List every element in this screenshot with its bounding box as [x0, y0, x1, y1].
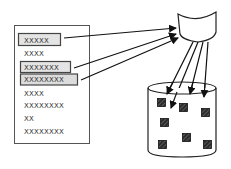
list-item: XXXXXXXX [24, 76, 64, 84]
data-block-icon [159, 141, 167, 149]
list-item: XXXX [24, 50, 44, 58]
data-block-icon [202, 109, 210, 117]
list-item: XXXXXXXX [24, 102, 64, 110]
list-item: XXXXXXX [24, 64, 59, 72]
list-item: XXXXXXXX [24, 128, 64, 136]
list-panel: XXXXX XXXX XXXXXXX XXXXXXXX XXXX XXXXXXX… [15, 26, 90, 144]
data-block-icon [161, 119, 169, 127]
data-block-icon [204, 141, 212, 149]
arrow-3 [81, 38, 178, 80]
collector-cup-icon [178, 12, 216, 42]
data-block-icon [180, 104, 188, 112]
list-item: XXXXX [24, 37, 49, 45]
list-item: XX [24, 115, 34, 123]
data-block-icon [183, 134, 191, 142]
diagram-canvas: XXXXX XXXX XXXXXXX XXXXXXXX XXXX XXXXXXX… [0, 0, 231, 169]
list-item: XXXX [24, 90, 44, 98]
data-block-icon [158, 99, 166, 107]
